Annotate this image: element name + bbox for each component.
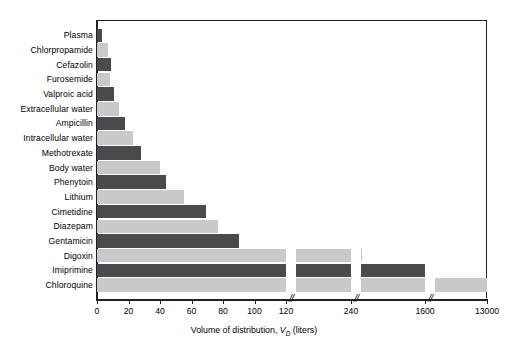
category-label: Cefazolin: [56, 60, 93, 69]
bar-row: Lithium: [0, 190, 508, 205]
bar-row: Cefazolin: [0, 57, 508, 72]
bar-segment: [97, 131, 133, 145]
bar: [97, 160, 160, 175]
x-axis-title-main: Volume of distribution,: [191, 325, 278, 335]
bar-segment: [296, 278, 351, 292]
category-label: Cimetidine: [51, 207, 93, 216]
bar-row: Phenytoin: [0, 175, 508, 190]
bar-segment: [97, 234, 239, 248]
x-tick-label: 100: [247, 306, 261, 316]
bar-row: Valproic acid: [0, 87, 508, 102]
bar: [97, 234, 239, 249]
bar: [97, 263, 425, 278]
bar-row: Body water: [0, 160, 508, 175]
bar: [97, 190, 184, 205]
bar: [97, 43, 108, 58]
x-tick: [223, 299, 224, 304]
category-label: Imiprimine: [52, 266, 93, 275]
category-label: Body water: [49, 163, 93, 172]
bar-row: Imiprimine: [0, 263, 508, 278]
bar-segment: [97, 73, 110, 87]
bar-row: Cimetidine: [0, 204, 508, 219]
bar: [97, 131, 133, 146]
x-axis-title-subscript: D: [286, 330, 291, 337]
x-axis-title-unit: (liters): [293, 325, 317, 335]
bar: [97, 278, 487, 293]
bar-segment: [97, 161, 160, 175]
category-label: Chloroquine: [46, 281, 93, 290]
category-label: Chlorpropamide: [30, 46, 93, 55]
x-tick: [487, 299, 488, 304]
x-tick: [351, 299, 352, 304]
bar-segment: [97, 58, 111, 72]
x-tick-label: 120: [279, 306, 293, 316]
bar: [97, 57, 111, 72]
bar-row: Furosemide: [0, 72, 508, 87]
bar-row: Diazepam: [0, 219, 508, 234]
bar-segment: [361, 278, 425, 292]
category-label: Diazepam: [54, 222, 94, 231]
category-label: Ampicillin: [56, 119, 93, 128]
bar-row: Methotrexate: [0, 146, 508, 161]
bar-row: Chloroquine: [0, 278, 508, 293]
bar-segment: [97, 29, 102, 43]
bar: [97, 248, 361, 263]
bar-segment: [296, 249, 351, 263]
bar-row: Extracellular water: [0, 101, 508, 116]
category-label: Extracellular water: [20, 104, 93, 113]
bar: [97, 175, 166, 190]
category-label: Phenytoin: [54, 178, 93, 187]
bar-row: Digoxin: [0, 248, 508, 263]
x-tick-label: 240: [344, 306, 358, 316]
bar: [97, 146, 141, 161]
chart-figure: PlasmaChlorpropamideCefazolinFurosemideV…: [0, 0, 508, 352]
x-tick-label: 40: [155, 306, 165, 316]
bar-segment: [97, 43, 108, 57]
bar-segment: [97, 117, 125, 131]
axis-break-icon: //: [354, 292, 358, 304]
bar: [97, 219, 218, 234]
bar-row: Ampicillin: [0, 116, 508, 131]
bar-segment: [97, 220, 218, 234]
x-tick-label: 0: [95, 306, 100, 316]
axis-break-icon: //: [428, 292, 432, 304]
bar-segment: [97, 205, 206, 219]
category-label: Intracellular water: [23, 134, 93, 143]
x-tick: [286, 299, 287, 304]
x-tick: [425, 299, 426, 304]
bar-segment: [435, 278, 487, 292]
bar-row: Gentamicin: [0, 234, 508, 249]
bar-segment: [97, 175, 166, 189]
bar-segment: [97, 264, 286, 278]
bar-segment: [97, 278, 286, 292]
bar-segment: [97, 87, 114, 101]
category-label: Plasma: [64, 31, 93, 40]
x-tick: [192, 299, 193, 304]
category-label: Furosemide: [47, 75, 93, 84]
bar-segment: [97, 102, 119, 116]
bar: [97, 87, 114, 102]
bar-segment: [97, 190, 184, 204]
bar-row: Chlorpropamide: [0, 43, 508, 58]
bar-rows: PlasmaChlorpropamideCefazolinFurosemideV…: [0, 28, 508, 292]
bar-segment: [361, 264, 425, 278]
bar-row: Plasma: [0, 28, 508, 43]
x-tick: [129, 299, 130, 304]
x-tick-label: 1600: [415, 306, 434, 316]
bar: [97, 28, 102, 43]
x-tick: [255, 299, 256, 304]
x-tick-label: 13000: [475, 306, 499, 316]
bar-segment: [97, 249, 286, 263]
bar: [97, 72, 110, 87]
x-tick-label: 60: [187, 306, 197, 316]
category-label: Gentamicin: [49, 237, 93, 246]
category-label: Valproic acid: [43, 90, 93, 99]
category-label: Digoxin: [64, 251, 93, 260]
category-label: Methotrexate: [42, 149, 93, 158]
bar-segment: [97, 146, 141, 160]
bar-row: Intracellular water: [0, 131, 508, 146]
bar: [97, 101, 119, 116]
bar: [97, 116, 125, 131]
bar-segment: [296, 264, 351, 278]
x-tick: [97, 299, 98, 304]
